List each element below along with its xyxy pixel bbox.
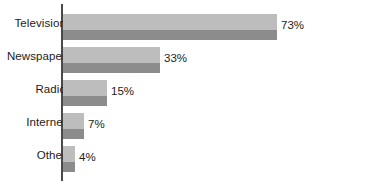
plot-area: Television 73% Newspaper 33% Radio 15%: [0, 0, 386, 189]
bar-segment-dark: [63, 129, 84, 139]
bar-segment-light: [63, 113, 84, 129]
bar-segment-light: [63, 80, 107, 96]
bar-value-label: 33%: [164, 52, 187, 64]
bar-segment-dark: [63, 63, 160, 73]
bar-segment-light: [63, 47, 160, 63]
category-label: Television: [0, 17, 66, 29]
bar-row: Radio 15%: [0, 77, 386, 107]
category-label: Newspaper: [0, 50, 66, 62]
bar-value-label: 4%: [79, 151, 96, 163]
bar-value-label: 15%: [111, 85, 134, 97]
bar-television: [63, 14, 277, 40]
bar-segment-dark: [63, 96, 107, 106]
bar-segment-light: [63, 146, 75, 162]
category-label: Internet: [0, 116, 66, 128]
bar-row: Other 4%: [0, 143, 386, 173]
bar-row: Internet 7%: [0, 110, 386, 140]
bar-segment-dark: [63, 30, 277, 40]
bar-value-label: 7%: [88, 118, 105, 130]
category-label: Other: [0, 149, 66, 161]
bar-segment-light: [63, 14, 277, 30]
bar-other: [63, 146, 75, 172]
bar-chart: Television 73% Newspaper 33% Radio 15%: [0, 0, 386, 189]
bar-segment-dark: [63, 162, 75, 172]
bar-internet: [63, 113, 84, 139]
bar-newspaper: [63, 47, 160, 73]
bar-row: Television 73%: [0, 11, 386, 41]
bar-value-label: 73%: [281, 19, 304, 31]
bar-radio: [63, 80, 107, 106]
bar-row: Newspaper 33%: [0, 44, 386, 74]
category-label: Radio: [0, 83, 66, 95]
